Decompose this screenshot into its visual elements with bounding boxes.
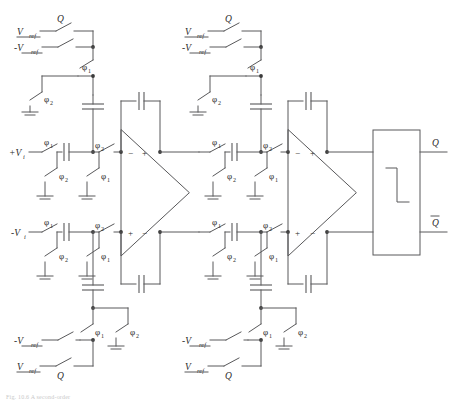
label-nvref-bot-2: -V xyxy=(182,336,192,346)
opamp1-in-minus-sign: − xyxy=(128,148,133,158)
label-nvref-top-2-sub: ref xyxy=(199,48,207,55)
label-phi1-s2-gndb-sub: 1 xyxy=(275,257,278,263)
label-out-q: Q xyxy=(432,138,439,148)
s2-switch-q-blade-top[interactable] xyxy=(224,23,239,31)
stage1-top-reference-network xyxy=(22,23,104,154)
label-phi2-in-minus: φ xyxy=(59,251,64,261)
label-phi1-botref-2-sub: 1 xyxy=(269,333,272,339)
s2-switch-phi2-top-blade[interactable] xyxy=(198,92,210,100)
switch-q-blade-bot[interactable] xyxy=(56,358,71,366)
s2-switch-phi2-bot-blade[interactable] xyxy=(284,324,296,332)
label-vref-bot-2: V xyxy=(185,362,192,372)
label-phi1-topref-2: φ xyxy=(250,62,255,72)
label-q-switch-top-1: Q xyxy=(57,14,64,24)
switch-phi1-bot-blade[interactable] xyxy=(81,324,93,332)
label-phi2-botref-1: φ xyxy=(130,327,135,337)
label-out-qbar: Q xyxy=(432,218,439,228)
switch-phi2-inminus-blade[interactable] xyxy=(45,248,57,256)
label-phi2-botref-2: φ xyxy=(298,327,303,337)
label-phi2-node-2-sub: 2 xyxy=(101,226,104,232)
stage1-input-plus-branch xyxy=(29,143,121,199)
label-vref-bot-1-sub: ref xyxy=(29,367,37,374)
label-phi2-topleft-2: φ xyxy=(212,94,217,104)
switch-phi2-inplus-blade[interactable] xyxy=(45,168,57,176)
label-phi2-s2-node-sub: 2 xyxy=(269,146,272,152)
label-phi2-topleft-2-sub: 2 xyxy=(218,100,221,106)
stage2-bottom-reference-network xyxy=(208,232,296,366)
opamp2-out-plus-sign: + xyxy=(310,148,315,158)
switch-qbar-blade-bot[interactable] xyxy=(58,332,73,340)
opamp2-out-minus-sign: − xyxy=(310,228,315,238)
label-phi2-s2-nodeb: φ xyxy=(263,220,268,230)
label-phi2-s2-in: φ xyxy=(227,171,232,181)
label-vin-minus: -V xyxy=(11,228,21,238)
switch-phi2-top-blade[interactable] xyxy=(30,92,42,100)
label-phi1-s2-gnd: φ xyxy=(269,171,274,181)
switch-phi2-bot-blade[interactable] xyxy=(116,324,128,332)
stage2-interstage-top xyxy=(199,143,288,199)
label-phi1-in-minus-sub: 1 xyxy=(50,223,53,229)
label-phi1-s2-inb-sub: 1 xyxy=(218,223,221,229)
label-vref-top-2-sub: ref xyxy=(197,32,205,39)
label-nvref-top-1-sub: ref xyxy=(31,48,39,55)
label-phi1-botref-2: φ xyxy=(263,327,268,337)
label-phi2-s2-in-sub: 2 xyxy=(233,177,236,183)
label-q-switch-bot-2: Q xyxy=(225,371,232,381)
s2-switch-qbar-blade-bot[interactable] xyxy=(226,332,241,340)
s2-switch-phi1-bot-blade[interactable] xyxy=(249,324,261,332)
label-phi1-in-plus-sub: 1 xyxy=(50,143,53,149)
label-phi2-botref-2-sub: 2 xyxy=(304,333,307,339)
comparator-latch-block[interactable] xyxy=(373,130,447,255)
label-vref-top-1: V xyxy=(17,27,24,37)
circuit-schematic: .w{stroke:#58585a;stroke-width:1;fill:no… xyxy=(0,0,455,401)
label-phi2-in-plus: φ xyxy=(59,171,64,181)
label-phi1-botref-1: φ xyxy=(95,327,100,337)
label-phi2-node-1-sub: 2 xyxy=(101,146,104,152)
label-phi2-botref-1-sub: 2 xyxy=(136,333,139,339)
label-phi1-gnd-2-sub: 1 xyxy=(107,257,110,263)
figure-caption: Fig. 10.6 A second-order xyxy=(6,394,70,400)
label-phi2-in-plus-sub: 2 xyxy=(65,177,68,183)
label-phi2-node-1: φ xyxy=(95,140,100,150)
s2-switch-qbar-blade-top[interactable] xyxy=(226,39,241,47)
labels-layer: Q V ref -V ref φ 1 φ 2 +V i φ 1 φ 2 φ 2 … xyxy=(9,14,439,381)
opamp-2 xyxy=(286,92,373,293)
opamp2-in-plus-sign: + xyxy=(295,228,300,238)
label-phi1-topref-1: φ xyxy=(82,62,87,72)
label-phi1-s2-inb: φ xyxy=(212,217,217,227)
opamp2-in-minus-sign: − xyxy=(295,148,300,158)
label-phi2-s2-inb-sub: 2 xyxy=(233,257,236,263)
s2-switch-phi2-in-blade[interactable] xyxy=(213,168,225,176)
label-phi2-in-minus-sub: 2 xyxy=(65,257,68,263)
label-phi1-s2-in: φ xyxy=(212,137,217,147)
label-vin-plus-sub: i xyxy=(23,153,25,160)
label-phi1-s2-gnd-sub: 1 xyxy=(275,177,278,183)
label-phi1-topref-2-sub: 1 xyxy=(256,68,259,74)
label-phi1-gnd-1: φ xyxy=(101,171,106,181)
label-phi1-in-minus: φ xyxy=(44,217,49,227)
switch-qbar-blade-top[interactable] xyxy=(58,39,73,47)
label-phi2-node-2: φ xyxy=(95,220,100,230)
step-waveform-icon xyxy=(386,168,409,202)
label-vref-top-2: V xyxy=(185,27,192,37)
s2-switch-phi2-inb-blade[interactable] xyxy=(213,248,225,256)
opamp-1 xyxy=(119,92,199,293)
opamp1-in-plus-sign: + xyxy=(128,228,133,238)
label-vin-plus: +V xyxy=(9,148,22,158)
junction xyxy=(91,74,95,78)
switch-q-blade-top[interactable] xyxy=(56,23,71,31)
s2-switch-q-blade-bot[interactable] xyxy=(224,358,239,366)
s2-switch-phi1-gnd-blade[interactable] xyxy=(255,168,267,176)
opamp1-out-minus-sign: − xyxy=(142,228,147,238)
label-vref-top-1-sub: ref xyxy=(29,32,37,39)
label-nvref-bot-2-sub: ref xyxy=(199,341,207,348)
label-nvref-bot-1-sub: ref xyxy=(31,341,39,348)
stage2-interstage-bottom xyxy=(199,223,288,279)
label-phi1-s2-gndb: φ xyxy=(269,251,274,261)
label-phi2-s2-nodeb-sub: 2 xyxy=(269,226,272,232)
label-phi2-topleft-1: φ xyxy=(44,94,49,104)
stage2-top-reference-network xyxy=(190,23,272,154)
label-phi1-s2-in-sub: 1 xyxy=(218,143,221,149)
stage1-input-minus-branch xyxy=(29,223,121,279)
switch-phi1-gnd-blade[interactable] xyxy=(87,168,99,176)
